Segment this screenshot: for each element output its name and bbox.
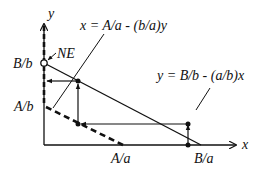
point-x-axis: [186, 143, 191, 148]
point-middle-line: [76, 79, 81, 84]
x-axis-label: x: [241, 137, 249, 152]
eq-y-leader: [196, 88, 210, 110]
label-A-over-a: A/a: [110, 151, 130, 166]
ne-point: [41, 60, 47, 66]
label-eq-x: x = A/a - (b/a)y: [79, 18, 168, 34]
diagram-canvas: y x B/b A/b A/a B/a NE x = A/a - (b/a)y …: [0, 0, 263, 171]
ne-pointer: [48, 53, 56, 60]
diagram: y x B/b A/b A/a B/a NE x = A/a - (b/a)y …: [0, 0, 263, 171]
label-B-over-b: B/b: [13, 56, 32, 71]
dashed-diagonal-segment: [46, 107, 123, 145]
point-right-line: [186, 122, 191, 127]
label-A-over-b: A/b: [13, 99, 33, 114]
label-eq-y: y = B/b - (a/b)x: [155, 68, 245, 84]
label-ne: NE: [56, 46, 75, 61]
label-B-over-a: B/a: [194, 151, 213, 166]
y-axis-label: y: [46, 6, 55, 21]
point-middle-dashed: [76, 122, 81, 127]
